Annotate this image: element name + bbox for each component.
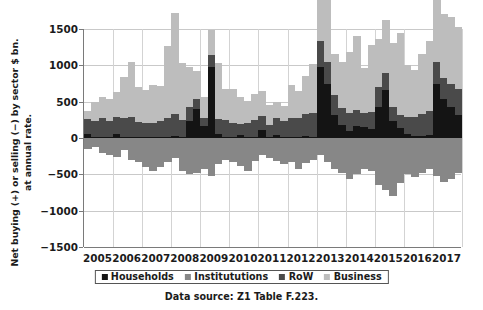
bar-segment xyxy=(455,89,463,114)
x-tick-label: 2011 xyxy=(258,252,287,264)
legend-label: Institututions xyxy=(194,271,268,282)
x-tick-label: 2009 xyxy=(199,252,228,264)
y-tick-label: −1500 xyxy=(36,241,78,253)
y-axis-title: Net buying (+) or selling (−) by sector … xyxy=(9,38,34,268)
bar-segment xyxy=(193,71,201,99)
x-tick-label: 2010 xyxy=(228,252,257,264)
x-tick-label: 2017 xyxy=(432,252,461,264)
bar-segment xyxy=(455,138,463,173)
source-note: Data source: Z1 Table F.223. xyxy=(165,291,318,302)
y-tick-label: 500 xyxy=(36,96,78,108)
y-tick-label: 1500 xyxy=(36,23,78,35)
legend-item[interactable]: Households xyxy=(101,271,173,282)
chart-legend: HouseholdsInstitututionsRoWBusiness xyxy=(94,270,388,284)
y-tick-label: 1000 xyxy=(36,59,78,71)
bar-series-layer xyxy=(84,29,461,247)
x-tick-label: 2015 xyxy=(374,252,403,264)
x-tick-label: 2012 xyxy=(287,252,316,264)
x-tick-label: 2005 xyxy=(83,252,112,264)
y-tick-label: −500 xyxy=(36,168,78,180)
x-tick-label: 2008 xyxy=(170,252,199,264)
plot-area xyxy=(83,29,461,247)
y-tick-mark xyxy=(79,247,83,248)
x-tick-label: 2007 xyxy=(141,252,170,264)
gridline-y--1500 xyxy=(84,247,461,248)
legend-swatch-icon xyxy=(101,274,107,280)
bar-segment xyxy=(208,30,216,55)
x-tick-label: 2014 xyxy=(345,252,374,264)
legend-label: Households xyxy=(111,271,174,282)
y-tick-label: −1000 xyxy=(36,205,78,217)
legend-label: RoW xyxy=(289,271,314,282)
chart-figure: Net buying (+) or selling (−) by sector … xyxy=(0,0,483,310)
x-tick-label: 2006 xyxy=(112,252,141,264)
x-tick-label: 2013 xyxy=(316,252,345,264)
y-tick-label: 0 xyxy=(36,132,78,144)
legend-swatch-icon xyxy=(324,274,330,280)
legend-item[interactable]: RoW xyxy=(279,271,313,282)
legend-swatch-icon xyxy=(185,274,191,280)
legend-swatch-icon xyxy=(279,274,285,280)
legend-label: Business xyxy=(334,271,382,282)
bar-segment xyxy=(455,27,463,89)
x-tick-label: 2016 xyxy=(403,252,432,264)
bar-segment xyxy=(324,0,332,62)
bar-segment xyxy=(455,115,463,138)
legend-item[interactable]: Business xyxy=(324,271,381,282)
legend-item[interactable]: Institututions xyxy=(185,271,268,282)
